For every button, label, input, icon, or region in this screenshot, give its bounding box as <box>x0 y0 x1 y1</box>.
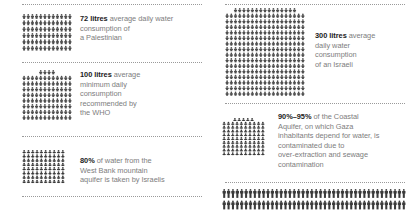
fact-desc-coastal-line1: of the Coastal <box>312 112 359 121</box>
fact-text-west-bank: 80% of water from the West Bank mountain… <box>80 150 165 185</box>
fact-coastal-aquifer: 90%–95% of the Coastal Aquifer, on which… <box>222 118 379 170</box>
pictogram-80-percent <box>22 150 65 184</box>
fact-desc-300-line2: daily water <box>315 41 350 50</box>
person-icon-grid <box>22 70 72 121</box>
fact-desc-300-line4: of an Israeli <box>315 60 353 69</box>
fact-desc-100-line3: consumption <box>80 89 122 98</box>
fact-desc-72-line2: a Palestinian <box>80 33 122 42</box>
fact-desc-100-line1: average <box>112 70 141 79</box>
fact-desc-coastal-line4: contaminated due to <box>278 141 344 150</box>
pictogram-bottom-cropped <box>222 189 406 212</box>
fact-palestinian-consumption: 72 litres average daily water consumptio… <box>22 14 203 52</box>
fact-desc-100-line4: recommended by <box>80 99 137 108</box>
fact-desc-80-line2: West Bank mountain <box>80 166 148 175</box>
fact-israeli-consumption: 300 litres average daily water consumpti… <box>225 8 375 97</box>
fact-text-palestinian: 72 litres average daily water consumptio… <box>80 14 203 43</box>
infographic-root: 72 litres average daily water consumptio… <box>0 0 406 212</box>
pictogram-100-litres <box>22 70 72 121</box>
fact-who-minimum: 100 litres average minimum daily consump… <box>22 70 140 121</box>
fact-value-80: 80% <box>80 156 95 165</box>
fact-text-who: 100 litres average minimum daily consump… <box>80 70 140 118</box>
fact-desc-100-line2: minimum daily <box>80 80 127 89</box>
fact-text-israeli: 300 litres average daily water consumpti… <box>315 8 375 69</box>
fact-desc-100-line5: the WHO <box>80 108 110 117</box>
fact-desc-coastal-line2: Aquifer, on which Gaza <box>278 122 353 131</box>
fact-value-300: 300 litres <box>315 31 347 40</box>
fact-value-100: 100 litres <box>80 70 112 79</box>
fact-desc-300-line3: consumption <box>315 50 357 59</box>
fact-desc-coastal-line5: over-extraction and sewage <box>278 150 368 159</box>
person-icon-grid <box>22 150 65 184</box>
right-column: 300 litres average daily water consumpti… <box>203 0 406 212</box>
fact-value-90-95: 90%–95% <box>278 112 312 121</box>
fact-desc-80-line1: of water from the <box>95 156 152 165</box>
fact-desc-coastal-line6: contamination <box>278 160 324 169</box>
person-icon-grid <box>222 189 406 212</box>
fact-text-coastal: 90%–95% of the Coastal Aquifer, on which… <box>278 112 379 170</box>
pictogram-90-95-percent <box>222 118 265 156</box>
person-icon-grid <box>222 118 265 156</box>
pictogram-300-litres <box>225 8 305 97</box>
fact-value-72: 72 litres <box>80 14 108 23</box>
left-column: 72 litres average daily water consumptio… <box>0 0 203 212</box>
fact-desc-300-line1: average <box>347 31 376 40</box>
fact-west-bank-aquifer: 80% of water from the West Bank mountain… <box>22 150 165 185</box>
person-icon-grid <box>225 8 305 97</box>
pictogram-72-litres <box>22 14 72 52</box>
fact-desc-coastal-line3: inhabitants depend for water, is <box>278 131 379 140</box>
fact-desc-80-line3: aquifer is taken by Israelis <box>80 175 165 184</box>
person-icon-grid <box>22 14 72 52</box>
